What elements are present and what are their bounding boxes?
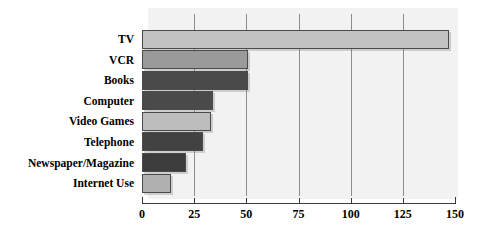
bar-chart: TVVCRBooksComputerVideo GamesTelephoneNe…	[0, 0, 493, 249]
x-tick-25	[194, 198, 195, 204]
y-axis-label-newspaper-magazine: Newspaper/Magazine	[0, 153, 138, 174]
bar-series	[142, 29, 455, 194]
y-axis-label-telephone: Telephone	[0, 132, 138, 153]
x-tick-label-25: 25	[174, 207, 214, 222]
x-tick-label-150: 150	[435, 207, 475, 222]
x-tick-label-75: 75	[279, 207, 319, 222]
bar-video-games	[142, 112, 211, 131]
x-tick-label-100: 100	[331, 207, 371, 222]
x-tick-50	[246, 198, 247, 204]
y-axis-label-internet-use: Internet Use	[0, 173, 138, 194]
x-tick-label-0: 0	[122, 207, 162, 222]
y-axis-label-computer: Computer	[0, 91, 138, 112]
bar-books	[142, 71, 248, 90]
bar-computer	[142, 91, 213, 110]
bar-tv	[142, 30, 449, 49]
bar-vcr	[142, 50, 248, 69]
x-tick-125	[403, 198, 404, 204]
bar-row	[142, 70, 455, 91]
bar-internet-use	[142, 174, 171, 193]
plot-area	[142, 14, 455, 196]
x-tick-label-50: 50	[226, 207, 266, 222]
x-tick-0	[142, 197, 143, 204]
bar-telephone	[142, 132, 203, 151]
y-axis-category-labels: TVVCRBooksComputerVideo GamesTelephoneNe…	[0, 29, 138, 194]
x-tick-75	[299, 198, 300, 204]
bar-newspaper-magazine	[142, 153, 186, 172]
y-axis-label-vcr: VCR	[0, 50, 138, 71]
x-tick-150	[455, 197, 456, 204]
bar-row	[142, 132, 455, 153]
bar-row	[142, 91, 455, 112]
bar-row	[142, 50, 455, 71]
y-axis-label-books: Books	[0, 70, 138, 91]
bar-row	[142, 111, 455, 132]
bar-row	[142, 29, 455, 50]
bar-row	[142, 173, 455, 194]
bar-row	[142, 153, 455, 174]
y-axis-label-video-games: Video Games	[0, 111, 138, 132]
x-tick-100	[351, 198, 352, 204]
y-axis-label-tv: TV	[0, 29, 138, 50]
x-tick-label-125: 125	[383, 207, 423, 222]
